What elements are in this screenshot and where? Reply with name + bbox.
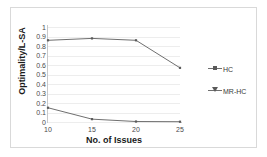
- y-axis-title: Optimality/L-SA: [17, 11, 27, 111]
- chart-figure: 10.90.80.70.60.50.40.30.20.10 Optimality…: [0, 0, 267, 157]
- y-tick-label: 1: [24, 24, 46, 31]
- data-point-marker: [179, 121, 181, 123]
- series-lines: [48, 27, 180, 122]
- plot-area: [48, 27, 180, 122]
- x-tick-label: 20: [123, 126, 149, 133]
- x-tick-label: 10: [35, 126, 61, 133]
- legend-label-mr-hc: MR-HC: [223, 88, 246, 95]
- series-line-hc: [48, 38, 180, 67]
- data-point-marker: [179, 67, 181, 69]
- data-point-marker: [91, 118, 93, 120]
- data-point-marker: [135, 39, 137, 41]
- y-tick-label: 0.9: [24, 33, 46, 40]
- y-tick-label: 0.8: [24, 43, 46, 50]
- legend-triangle-marker-icon: [208, 86, 222, 96]
- y-tick-label: 0.6: [24, 62, 46, 69]
- y-tick-label: 0.4: [24, 81, 46, 88]
- y-tick-label: 0.2: [24, 100, 46, 107]
- chart-legend: HC MR-HC: [208, 58, 264, 102]
- x-tick-label: 15: [79, 126, 105, 133]
- data-point-marker: [135, 120, 137, 122]
- gridline: [48, 122, 180, 123]
- legend-entry-hc[interactable]: HC: [208, 58, 264, 80]
- y-tick-label: 0.1: [24, 109, 46, 116]
- series-line-mr-hc: [48, 108, 180, 122]
- x-axis-title: No. of Issues: [48, 135, 180, 145]
- legend-entry-mr-hc[interactable]: MR-HC: [208, 80, 264, 102]
- data-point-marker: [47, 39, 49, 41]
- legend-line-marker-icon: [208, 64, 222, 74]
- data-point-marker: [47, 107, 49, 109]
- y-tick-label: 0.5: [24, 71, 46, 78]
- y-tick-label: 0.3: [24, 90, 46, 97]
- data-point-marker: [91, 37, 93, 39]
- y-tick-label: 0.7: [24, 52, 46, 59]
- y-tick-label: 0: [24, 119, 46, 126]
- legend-label-hc: HC: [223, 66, 233, 73]
- x-tick-label: 25: [167, 126, 193, 133]
